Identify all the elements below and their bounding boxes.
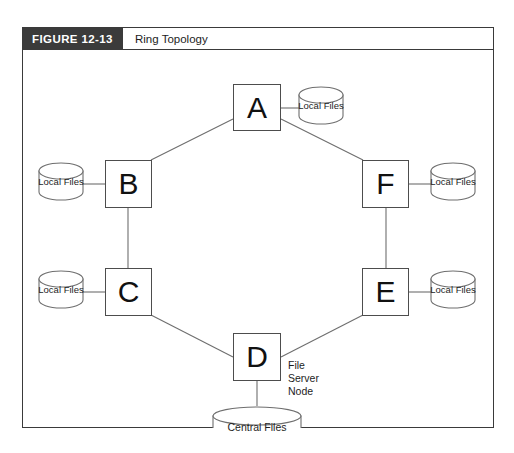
node-d-label: D (246, 342, 268, 372)
store-e: Local Files (431, 271, 475, 308)
link-b-a (151, 119, 233, 160)
store-d-central: Central Files (213, 408, 301, 446)
store-c-label: Local Files (39, 271, 83, 308)
diagram-canvas: Local Files Local Files Local Files Loca… (23, 50, 493, 428)
node-a[interactable]: A (233, 84, 281, 131)
store-c: Local Files (39, 271, 83, 308)
figure-frame: FIGURE 12-13 Ring Topology (22, 27, 494, 428)
file-server-node-annotation: File Server Node (288, 359, 319, 398)
store-a-label: Local Files (299, 87, 343, 124)
node-b-label: B (118, 169, 138, 199)
node-c[interactable]: C (105, 268, 152, 316)
node-e[interactable]: E (362, 268, 409, 316)
store-e-label: Local Files (431, 271, 475, 308)
node-b[interactable]: B (105, 160, 152, 208)
store-b: Local Files (39, 163, 83, 200)
figure-title: Ring Topology (135, 28, 208, 50)
node-e-label: E (375, 277, 395, 307)
store-d-label: Central Files (213, 408, 301, 446)
ring-links (128, 119, 386, 357)
link-d-e (281, 315, 363, 357)
node-d[interactable]: D (233, 333, 281, 381)
link-a-f (281, 119, 363, 160)
node-c-label: C (118, 277, 140, 307)
annotation-line-2: Server (288, 372, 319, 385)
store-a: Local Files (299, 87, 343, 124)
annotation-line-3: Node (288, 385, 319, 398)
annotation-line-1: File (288, 359, 319, 372)
node-f[interactable]: F (362, 160, 409, 208)
store-f: Local Files (431, 163, 475, 200)
node-a-label: A (247, 93, 267, 123)
store-b-label: Local Files (39, 163, 83, 200)
figure-number-badge: FIGURE 12-13 (23, 28, 123, 51)
store-f-label: Local Files (431, 163, 475, 200)
link-c-d (151, 315, 233, 357)
node-f-label: F (376, 169, 394, 199)
figure-header: FIGURE 12-13 Ring Topology (23, 28, 493, 50)
